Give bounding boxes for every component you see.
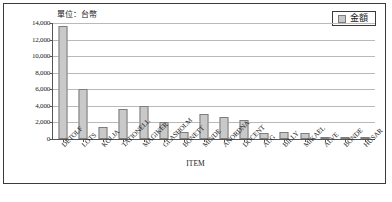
y-tick-label: 6,000	[35, 86, 50, 93]
y-tick-mark	[50, 139, 53, 140]
legend-swatch-amount	[338, 15, 346, 23]
y-tick-label: 10,000	[32, 53, 50, 60]
bar-slot	[335, 23, 355, 139]
bar-slot	[315, 23, 335, 139]
bar-slot	[53, 23, 73, 139]
y-tick-label: 14,000	[32, 20, 50, 27]
y-tick-label: 8,000	[35, 69, 50, 76]
legend-label-amount: 金額	[350, 14, 368, 23]
y-tick-label: 12,000	[32, 36, 50, 43]
bar-slot	[254, 23, 274, 139]
bar-slot	[214, 23, 234, 139]
chart-frame: 單位：台幣 金額 02,0004,0006,0008,00010,00012,0…	[3, 3, 386, 184]
x-axis-title: ITEM	[4, 160, 387, 168]
bar-slot	[194, 23, 214, 139]
bar-slot	[113, 23, 133, 139]
bar-slot	[274, 23, 294, 139]
y-tick-label: 2,000	[35, 119, 50, 126]
y-tick-label: 0	[47, 136, 50, 143]
bar-series-amount	[53, 23, 375, 139]
bar-slot	[73, 23, 93, 139]
bar-slot	[355, 23, 375, 139]
bar[interactable]	[59, 26, 68, 139]
bar-slot	[93, 23, 113, 139]
unit-annotation: 單位：台幣	[57, 10, 97, 19]
plot-area: 02,0004,0006,0008,00010,00012,00014,000	[52, 23, 375, 140]
y-tick-label: 4,000	[35, 102, 50, 109]
bar-slot	[295, 23, 315, 139]
